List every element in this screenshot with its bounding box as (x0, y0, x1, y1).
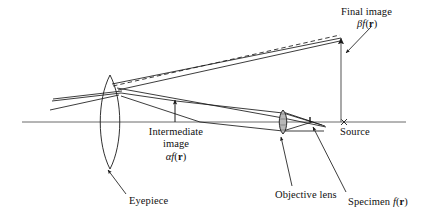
specimen-paren-close: ) (404, 196, 408, 207)
intermediate-paren-close: ) (183, 151, 187, 162)
virtual-image-dashed-line (113, 35, 340, 86)
final-image-line1: Final image (341, 6, 392, 17)
ray-exit-third (53, 91, 122, 99)
label-objective-lens: Objective lens (275, 189, 337, 201)
ray-objective-top-link (283, 112, 322, 125)
objective-lens[interactable] (279, 110, 287, 134)
label-intermediate-image: Intermediate image αf(r) (133, 126, 219, 163)
label-final-image: Final image βf(r) (341, 6, 392, 31)
optical-ray-diagram-figure: Final image βf(r) Intermediate image αf(… (0, 0, 430, 220)
label-source: Source (340, 126, 370, 138)
ray-chief (117, 88, 326, 127)
ray-to-final-lower (118, 41, 340, 90)
optical-diagram-canvas (0, 0, 430, 220)
leader-eyepiece (108, 170, 126, 194)
ray-upper-marginal (121, 93, 325, 126)
leader-objective-lens (281, 137, 292, 186)
eyepiece-text: Eyepiece (129, 195, 168, 206)
label-specimen: Specimen f(r) (348, 196, 408, 208)
ray-to-final-upper (112, 38, 341, 84)
source-text: Source (340, 126, 370, 137)
specimen-text: Specimen (348, 196, 393, 207)
leader-final-image (346, 27, 371, 53)
intermediate-line2: image (133, 138, 219, 150)
intermediate-line1: Intermediate (133, 126, 219, 138)
label-eyepiece: Eyepiece (129, 195, 168, 207)
final-image-paren-close: ) (374, 18, 378, 29)
final-image-formula: βf(r) (341, 18, 392, 30)
intermediate-formula: αf(r) (133, 151, 219, 163)
objective-lens-text: Objective lens (275, 189, 337, 200)
